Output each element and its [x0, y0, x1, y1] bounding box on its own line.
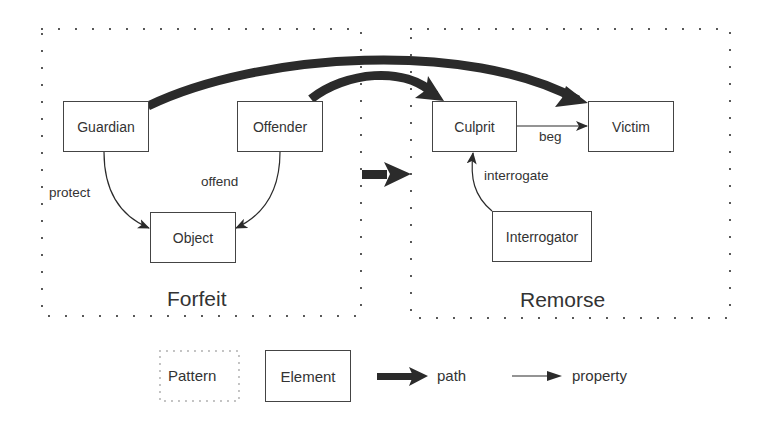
pattern-transition-shaft — [362, 170, 387, 179]
element-object-label: Object — [173, 230, 213, 246]
element-victim: Victim — [588, 101, 674, 152]
element-interrogator: Interrogator — [492, 211, 592, 262]
legend-pattern-label: Pattern — [168, 367, 216, 384]
pattern-forfeit-title: Forfeit — [167, 287, 227, 311]
property-beg-label: beg — [539, 129, 562, 144]
legend-path-label: path — [437, 367, 466, 384]
pattern-transition-head — [384, 162, 411, 187]
property-offend-label: offend — [201, 174, 238, 189]
element-interrogator-label: Interrogator — [506, 229, 578, 245]
legend-path-shaft — [377, 373, 413, 380]
element-victim-label: Victim — [612, 119, 650, 135]
diagram-canvas — [0, 0, 770, 423]
property-offend-arrow — [236, 152, 280, 228]
element-culprit-label: Culprit — [454, 119, 494, 135]
element-guardian-label: Guardian — [77, 119, 135, 135]
path-guardian-victim — [148, 60, 578, 106]
pattern-forfeit-border — [42, 29, 361, 316]
path-offender-culprit — [311, 75, 435, 99]
legend-property-label: property — [572, 367, 627, 384]
element-offender: Offender — [237, 101, 323, 152]
pattern-remorse-title: Remorse — [520, 288, 605, 312]
legend-property-head — [547, 371, 562, 381]
property-interrogate-label: interrogate — [484, 168, 549, 183]
element-offender-label: Offender — [253, 119, 307, 135]
property-protect-arrow — [104, 152, 149, 228]
element-culprit: Culprit — [432, 101, 517, 152]
property-protect-label: protect — [49, 185, 90, 200]
legend-element-label: Element — [280, 368, 335, 385]
element-object: Object — [150, 212, 236, 263]
element-guardian: Guardian — [63, 101, 149, 152]
legend-element-swatch: Element — [265, 350, 351, 402]
pattern-remorse-border — [411, 29, 730, 318]
